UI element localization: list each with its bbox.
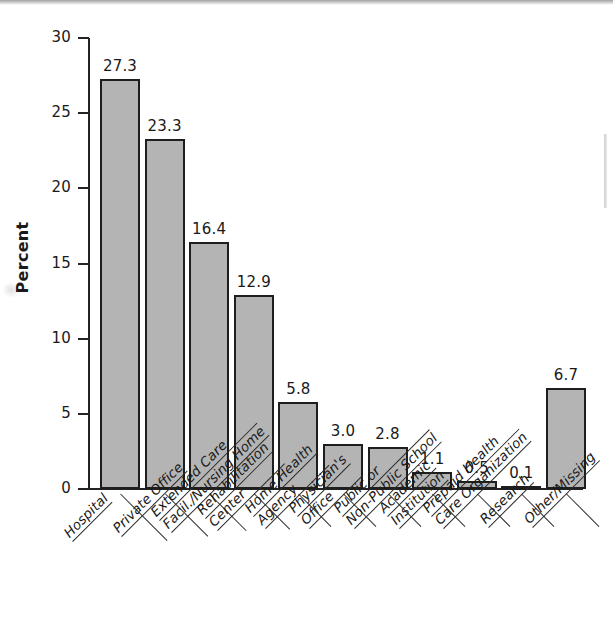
y-axis-line <box>88 38 90 490</box>
y-axis-tick-label: 0 <box>0 479 71 497</box>
y-axis-tick-label: 30 <box>0 28 71 46</box>
bar-value-label: 12.9 <box>222 273 286 291</box>
y-axis-tick-label: 5 <box>0 404 71 422</box>
bar-value-label: 23.3 <box>133 117 197 135</box>
y-axis-tick-label: 25 <box>0 103 71 121</box>
y-axis-tick-label: 10 <box>0 329 71 347</box>
y-axis-tick-label: 20 <box>0 178 71 196</box>
y-axis-tick-label: 15 <box>0 254 71 272</box>
category-label: Hospital <box>61 490 113 542</box>
category-label-line: Hospital <box>61 490 113 542</box>
bar <box>145 139 185 489</box>
bar-value-label: 5.8 <box>266 380 330 398</box>
bar-value-label: 6.7 <box>534 366 598 384</box>
bar-value-label: 27.3 <box>88 57 152 75</box>
bar <box>100 79 140 489</box>
category-leader-line <box>566 494 599 527</box>
bar-value-label: 16.4 <box>177 220 241 238</box>
bar-chart: Percent 051015202530 27.323.316.412.95.8… <box>0 0 613 644</box>
